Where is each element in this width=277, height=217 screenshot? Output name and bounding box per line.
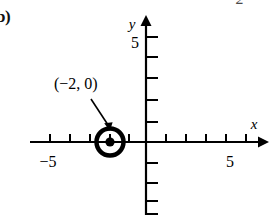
annotation-leader (91, 99, 113, 131)
y-tick-label-five: 5 (131, 34, 139, 51)
x-axis-label: x (250, 116, 258, 132)
y-axis-label: y (127, 16, 136, 32)
y-axis-ticks-positive (146, 37, 158, 122)
x-axis-ticks-negative (50, 134, 129, 142)
x-axis (30, 137, 269, 148)
y-axis (141, 15, 152, 215)
x-tick-label-positive-five: 5 (226, 153, 234, 170)
y-axis-arrowhead (141, 15, 152, 26)
data-point-dot (105, 137, 114, 146)
x-axis-arrowhead (258, 137, 269, 148)
figure-panel: b) 2 (0, 0, 277, 217)
point-coordinate-label: (−2, 0) (54, 76, 98, 92)
y-axis-ticks-negative (146, 163, 158, 214)
x-axis-ticks-positive (166, 134, 246, 142)
x-tick-label-negative-five: −5 (39, 153, 56, 170)
coordinate-plane: x y −5 5 5 (0, 0, 277, 217)
